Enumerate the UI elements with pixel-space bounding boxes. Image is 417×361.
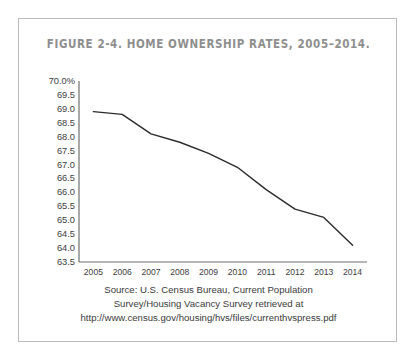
- figure-frame: FIGURE 2-4. HOME OWNERSHIP RATES, 2005–2…: [18, 18, 397, 342]
- y-tick-label: 66.0: [19, 187, 75, 197]
- x-tick-label: 2006: [108, 267, 137, 277]
- source-note-line: http://www.census.gov/housing/hvs/files/…: [27, 311, 390, 325]
- y-tick-label: 70.0%: [19, 76, 75, 86]
- y-tick-label: 64.5: [19, 229, 75, 239]
- y-tick-label: 69.0: [19, 104, 75, 114]
- source-note: Source: U.S. Census Bureau, Current Popu…: [27, 283, 390, 325]
- x-tick-label: 2005: [79, 267, 108, 277]
- x-tick-label: 2014: [338, 267, 367, 277]
- y-tick-label: 68.5: [19, 118, 75, 128]
- y-tick-label: 66.5: [19, 173, 75, 183]
- x-tick-label: 2008: [165, 267, 194, 277]
- source-note-line: Survey/Housing Vacancy Survey retrieved …: [27, 297, 390, 311]
- y-tick-label: 69.5: [19, 90, 75, 100]
- y-tick-label: 64.0: [19, 243, 75, 253]
- y-tick-label: 65.0: [19, 215, 75, 225]
- source-note-line: Source: U.S. Census Bureau, Current Popu…: [27, 283, 390, 297]
- y-tick-label: 65.5: [19, 201, 75, 211]
- y-tick-label: 67.0: [19, 160, 75, 170]
- x-tick-label: 2009: [194, 267, 223, 277]
- x-tick-label: 2010: [223, 267, 252, 277]
- y-tick-label: 63.5: [19, 257, 75, 267]
- x-tick-label: 2011: [252, 267, 281, 277]
- x-tick-label: 2007: [137, 267, 166, 277]
- y-tick-label: 67.5: [19, 146, 75, 156]
- x-tick-label: 2012: [281, 267, 310, 277]
- data-series-line: [93, 112, 352, 246]
- x-tick-label: 2013: [309, 267, 338, 277]
- y-tick-label: 68.0: [19, 132, 75, 142]
- chart-axes: [79, 81, 367, 262]
